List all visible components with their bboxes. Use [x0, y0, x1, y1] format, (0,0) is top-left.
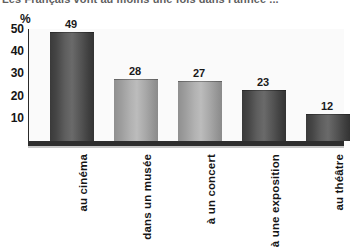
bar-4 [242, 90, 286, 141]
y-axis-tick-label: 50 [0, 22, 24, 36]
bar-5 [306, 114, 350, 141]
bar-value-label: 49 [65, 18, 77, 30]
bar-value-label: 27 [193, 67, 205, 79]
bar-value-label: 28 [129, 65, 141, 77]
category-label: au théâtre [333, 154, 345, 210]
bar-value-label: 12 [321, 100, 333, 112]
y-axis-tick-label: 30 [0, 66, 24, 80]
y-axis-tick-label: 10 [0, 111, 24, 125]
bar-chart: % 1020304050 4928272312 au cinémadans un… [0, 8, 344, 247]
y-axis-tick-label: 40 [0, 44, 24, 58]
bar-2 [114, 79, 158, 141]
category-label: à un concert [205, 154, 217, 224]
bar-3 [178, 81, 222, 141]
category-label: à une exposition [269, 154, 281, 247]
category-label: dans un musée [141, 154, 153, 240]
category-label: au cinéma [77, 154, 89, 212]
bar-1 [50, 32, 94, 141]
figure-title: Les Français vont au moins une fois dans… [2, 0, 344, 5]
plot-area [28, 29, 344, 141]
y-axis-tick-label: 20 [0, 89, 24, 103]
bar-value-label: 23 [257, 76, 269, 88]
baseline-shadow [28, 146, 344, 148]
